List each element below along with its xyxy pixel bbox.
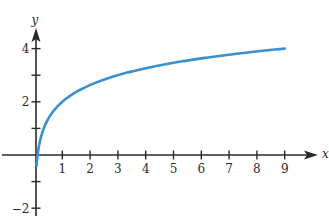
y-axis-label: y — [31, 13, 39, 27]
y-tick-label: 2 — [22, 95, 30, 109]
axes — [2, 28, 318, 216]
x-tick-label: 1 — [58, 162, 66, 176]
x-tick-label: 9 — [281, 162, 289, 176]
x-tick-label: 8 — [253, 162, 261, 176]
x-tick-label: 5 — [170, 162, 178, 176]
x-tick-label: 2 — [86, 162, 94, 176]
x-tick-label: 3 — [114, 162, 122, 176]
x-tick-label: 4 — [142, 162, 150, 176]
function-curve — [36, 49, 284, 167]
log-function-chart: 123456789−224 x y — [0, 0, 329, 223]
x-tick-label: 6 — [197, 162, 205, 176]
x-axis-label: x — [322, 147, 329, 161]
ticks — [32, 49, 285, 209]
y-tick-label: 4 — [22, 42, 30, 56]
x-tick-label: 7 — [225, 162, 233, 176]
y-tick-label: −2 — [12, 202, 30, 216]
